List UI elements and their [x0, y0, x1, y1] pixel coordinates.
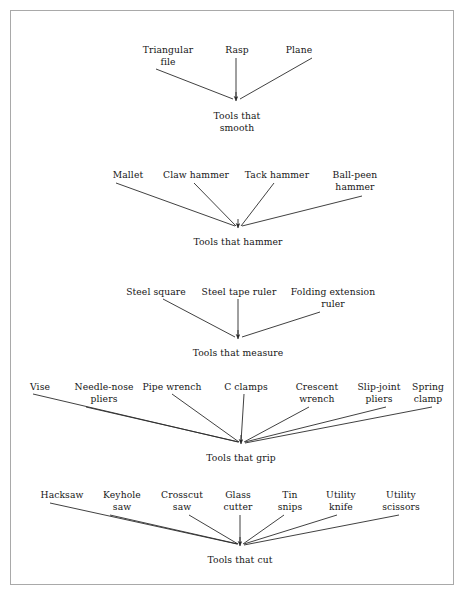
leaf-node-label: Steel tape ruler: [202, 286, 277, 298]
leaf-node-label: Mallet: [113, 169, 144, 181]
root-node-label: Tools that cut: [208, 554, 273, 566]
root-node-label: Tools that measure: [193, 347, 284, 359]
leaf-node-label: Tin snips: [278, 489, 303, 512]
leaf-node-label: Steel square: [126, 286, 186, 298]
root-node-label: Tools that grip: [206, 452, 275, 464]
node-labels-layer: Triangular fileRaspPlaneTools that smoot…: [0, 0, 464, 600]
leaf-node-label: Plane: [286, 44, 312, 56]
leaf-node-label: Glass cutter: [224, 489, 253, 512]
leaf-node-label: Triangular file: [143, 44, 193, 67]
leaf-node-label: Utility scissors: [382, 489, 420, 512]
leaf-node-label: C clamps: [224, 381, 268, 393]
leaf-node-label: Slip-joint pliers: [357, 381, 400, 404]
leaf-node-label: Utility knife: [326, 489, 356, 512]
leaf-node-label: Tack hammer: [245, 169, 309, 181]
leaf-node-label: Needle-nose pliers: [75, 381, 134, 404]
leaf-node-label: Folding extension ruler: [291, 286, 375, 309]
root-node-label: Tools that hammer: [193, 236, 282, 248]
leaf-node-label: Pipe wrench: [142, 381, 201, 393]
diagram-canvas: Triangular fileRaspPlaneTools that smoot…: [0, 0, 464, 600]
leaf-node-label: Hacksaw: [41, 489, 84, 501]
root-node-label: Tools that smooth: [214, 110, 261, 133]
leaf-node-label: Crescent wrench: [296, 381, 339, 404]
leaf-node-label: Ball-peen hammer: [333, 169, 378, 192]
leaf-node-label: Spring clamp: [412, 381, 444, 404]
leaf-node-label: Keyhole saw: [103, 489, 141, 512]
leaf-node-label: Crosscut saw: [161, 489, 203, 512]
leaf-node-label: Claw hammer: [163, 169, 229, 181]
leaf-node-label: Vise: [30, 381, 50, 393]
leaf-node-label: Rasp: [225, 44, 249, 56]
